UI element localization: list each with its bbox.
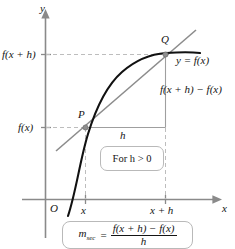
secant-slope-formula: msec = f(x + h) − f(x) h [79,223,177,247]
x-axis-label: x [222,203,227,214]
y-tick-label-f-x-plus-h: f(x + h) [2,49,36,60]
condition-text: For h > 0 [113,153,152,164]
y-tick-label-f-x: f(x) [18,122,33,133]
formula-lhs: msec [79,227,97,242]
origin-label: O [50,203,58,214]
formula-fraction: f(x + h) − f(x) h [111,223,177,247]
point-q-label: Q [161,34,169,45]
formula-equals-sign: = [96,229,110,241]
run-label: h [120,130,126,141]
point-p-label: P [78,109,85,120]
point-p-marker [83,125,88,130]
point-q-marker [163,52,168,57]
x-tick-label-x-plus-h: x + h [150,205,173,216]
formula-callout-box: msec = f(x + h) − f(x) h [62,221,193,249]
x-tick-label-x: x [81,205,86,216]
formula-numerator: f(x + h) − f(x) [111,223,177,234]
condition-callout-box: For h > 0 [100,146,164,171]
formula-lhs-subscript: sec [86,235,95,243]
formula-denominator: h [139,236,149,247]
rise-label: f(x + h) − f(x) [160,84,222,95]
curve-equation-label: y = f(x) [176,55,209,66]
y-axis-label: y [40,3,45,14]
function-curve [68,52,200,216]
